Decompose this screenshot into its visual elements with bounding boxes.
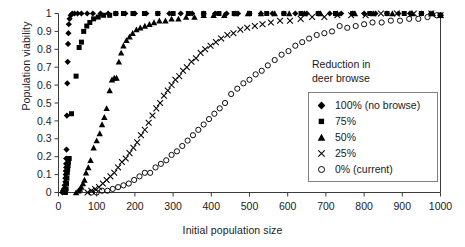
legend-item-3[interactable]: 25% — [309, 145, 437, 161]
data-point-filled-triangle — [120, 43, 126, 49]
data-point-open-circle — [126, 181, 131, 186]
data-point-filled-square — [155, 11, 160, 16]
x-tick-label: 0 — [56, 200, 62, 212]
data-point-open-circle — [241, 81, 246, 86]
data-point-open-circle — [265, 63, 270, 68]
data-point-open-circle — [253, 72, 258, 77]
legend-item-0[interactable]: 100% (no browse) — [309, 97, 437, 113]
data-point-open-circle — [300, 40, 305, 45]
filled-triangle-icon — [317, 129, 335, 145]
data-point-filled-diamond — [65, 30, 71, 36]
x-tick-label: 600 — [279, 200, 297, 212]
x-tick-label: 900 — [394, 200, 412, 212]
data-point-open-circle — [416, 16, 421, 21]
data-point-open-circle — [132, 177, 137, 182]
data-point-open-circle — [329, 29, 334, 34]
legend-item-4[interactable]: 0% (current) — [309, 161, 437, 177]
data-point-filled-triangle — [106, 87, 112, 93]
x-tick-label: 100 — [88, 200, 106, 212]
data-point-filled-square — [142, 11, 147, 16]
data-point-filled-diamond — [63, 146, 69, 152]
x-tick-label: 300 — [164, 200, 182, 212]
data-point-open-circle — [222, 100, 227, 105]
y-tick-label: 0.9 — [37, 25, 52, 37]
y-tick-label: 0.3 — [37, 132, 52, 144]
data-point-open-circle — [121, 183, 126, 188]
legend-item-label: 75% — [335, 115, 356, 127]
data-point-open-circle — [206, 117, 211, 122]
data-point-filled-triangle — [103, 105, 109, 111]
data-point-cross-x — [153, 105, 159, 111]
data-point-cross-x — [321, 14, 327, 20]
data-point-cross-x — [244, 25, 250, 31]
data-point-cross-x — [184, 64, 190, 70]
legend-item-label: 0% (current) — [335, 163, 393, 175]
data-point-cross-x — [277, 18, 283, 24]
data-point-open-circle — [174, 149, 179, 154]
data-point-filled-triangle — [116, 59, 122, 65]
data-point-filled-square — [64, 181, 69, 186]
legend-item-1[interactable]: 75% — [309, 113, 437, 129]
data-point-open-circle — [247, 77, 252, 82]
data-point-filled-square — [101, 13, 106, 18]
data-point-open-circle — [153, 165, 158, 170]
data-point-filled-triangle — [101, 114, 107, 120]
data-point-cross-x — [260, 21, 266, 27]
data-point-open-circle — [407, 16, 412, 21]
data-point-open-circle — [397, 18, 402, 23]
data-point-filled-square — [67, 156, 72, 161]
legend-item-2[interactable]: 50% — [309, 129, 437, 145]
y-tick-label: 0.6 — [37, 79, 52, 91]
data-point-filled-triangle — [286, 10, 292, 16]
data-point-open-circle — [169, 152, 174, 157]
y-tick-label: 0.2 — [37, 150, 52, 162]
data-point-filled-diamond — [78, 10, 84, 16]
data-point-cross-x — [127, 150, 133, 156]
x-tick-label: 700 — [317, 200, 335, 212]
x-axis-title: Initial population size — [0, 224, 465, 236]
data-point-filled-diamond — [65, 41, 71, 47]
data-point-open-circle — [217, 106, 222, 111]
data-point-open-circle — [201, 122, 206, 127]
data-point-filled-square — [107, 13, 112, 18]
data-point-filled-square — [216, 11, 221, 16]
figure: 00.10.20.30.40.50.60.70.80.9101002003004… — [0, 0, 465, 247]
x-tick-label: 200 — [126, 200, 144, 212]
data-point-open-circle — [158, 161, 163, 166]
data-point-cross-x — [202, 46, 208, 52]
y-tick-label: 0.1 — [37, 168, 52, 180]
data-point-filled-triangle — [90, 145, 96, 151]
data-point-cross-x — [130, 145, 136, 151]
data-point-cross-x — [176, 73, 182, 79]
data-point-filled-square — [419, 11, 424, 16]
data-point-cross-x — [142, 127, 148, 133]
data-point-cross-x — [161, 93, 167, 99]
data-point-filled-square — [79, 40, 84, 45]
data-point-cross-x — [150, 113, 156, 119]
data-point-filled-diamond — [327, 10, 333, 16]
data-point-cross-x — [298, 16, 304, 22]
data-point-filled-diamond — [178, 10, 184, 16]
x-tick-label: 400 — [203, 200, 221, 212]
filled-square-icon — [317, 113, 335, 129]
data-point-cross-x — [134, 139, 140, 145]
data-point-cross-x — [193, 55, 199, 61]
data-point-filled-diamond — [84, 10, 90, 16]
data-point-cross-x — [224, 32, 230, 38]
legend-title-line-1: Reduction in — [312, 58, 370, 72]
data-point-open-circle — [212, 111, 217, 116]
data-point-filled-triangle — [87, 157, 93, 163]
data-point-filled-square — [91, 16, 96, 21]
data-point-open-circle — [272, 57, 277, 62]
y-tick-label: 0.8 — [37, 43, 52, 55]
data-point-open-circle — [259, 68, 264, 73]
data-point-filled-diamond — [66, 21, 72, 27]
legend-item-label: 100% (no browse) — [335, 99, 420, 111]
legend-item-label: 25% — [335, 147, 356, 159]
data-point-open-circle — [345, 25, 350, 30]
data-point-cross-x — [213, 39, 219, 45]
data-point-filled-diamond — [90, 10, 96, 16]
y-tick-label: 0 — [46, 186, 52, 198]
data-point-filled-square — [69, 111, 74, 116]
data-point-filled-square — [74, 74, 79, 79]
